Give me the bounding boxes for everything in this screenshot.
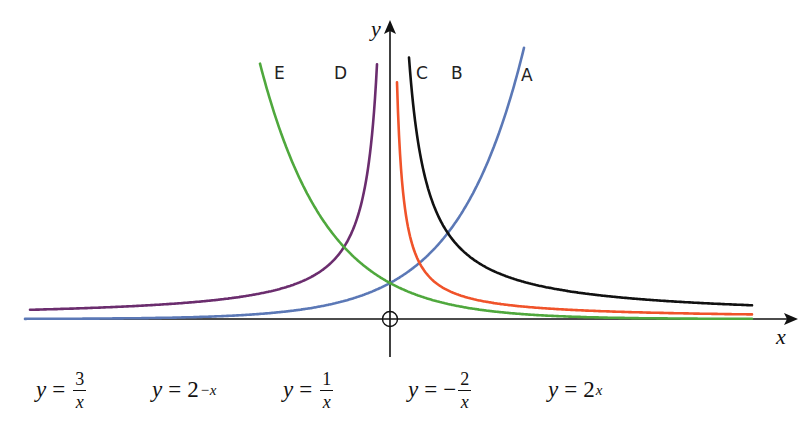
eq-lhs: y [283, 377, 293, 403]
eq-lhs: y [36, 377, 46, 403]
fraction: 3 x [73, 370, 86, 411]
curve-c [397, 82, 752, 314]
eq-equals: = [168, 377, 181, 403]
power-base: 2 [187, 377, 199, 403]
curve-b [409, 58, 752, 306]
eq-equals: = [564, 377, 577, 403]
curve-label-a: A [521, 65, 533, 85]
eq-equals: = [299, 377, 312, 403]
power-exponent: −x [200, 382, 217, 399]
eq-lhs: y [408, 377, 418, 403]
x-axis-label: x [775, 324, 786, 349]
equation-3-over-x: y = 3 x [36, 362, 86, 418]
power-base: 2 [583, 377, 595, 403]
y-axis-label: y [369, 16, 381, 41]
power-exponent: x [596, 382, 603, 399]
curve-e [260, 64, 752, 319]
curve-d [30, 64, 377, 310]
curve-label-d: D [334, 63, 347, 83]
eq-lhs: y [548, 377, 558, 403]
equation-2-pow-neg-x: y = 2 −x [152, 362, 216, 418]
eq-equals: = [52, 377, 65, 403]
curve-a [25, 48, 524, 319]
eq-lhs: y [152, 377, 162, 403]
equation-neg-2-over-x: y = − 2 x [408, 362, 471, 418]
equation-1-over-x: y = 1 x [283, 362, 333, 418]
curves [25, 48, 752, 319]
numerator: 2 [458, 370, 471, 391]
fraction: 1 x [320, 370, 333, 411]
denominator: x [323, 391, 331, 411]
curve-label-b: B [451, 63, 463, 83]
curve-label-c: C [416, 63, 428, 83]
fraction: 2 x [458, 370, 471, 411]
eq-equals: = [424, 377, 437, 403]
numerator: 1 [320, 370, 333, 391]
curve-label-e: E [274, 63, 285, 83]
denominator: x [76, 391, 84, 411]
denominator: x [461, 391, 469, 411]
numerator: 3 [73, 370, 86, 391]
equation-list: y = 3 x y = 2 −x y = 1 x y = − 2 x y = 2… [0, 362, 812, 422]
equation-2-pow-x: y = 2 x [548, 362, 602, 418]
minus-sign: − [443, 377, 456, 403]
function-graph: x y E D C B A [0, 0, 812, 423]
